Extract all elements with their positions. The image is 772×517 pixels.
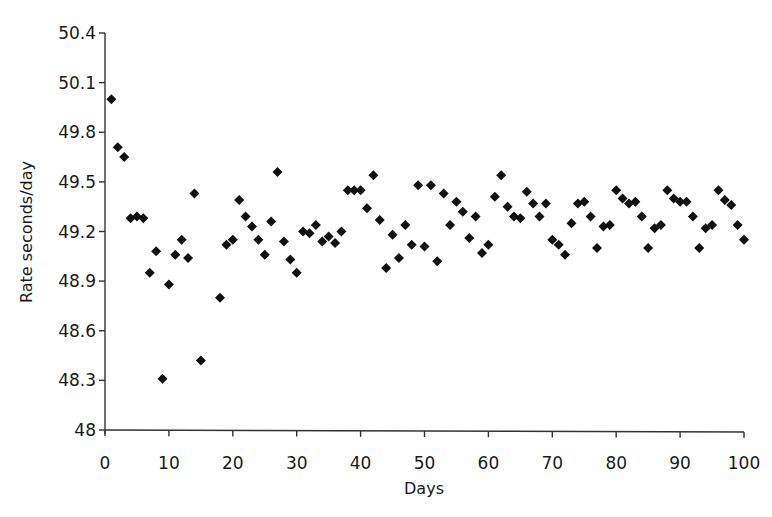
diamond-marker <box>279 236 289 246</box>
y-tick-label: 50.1 <box>58 73 96 93</box>
x-tick-label: 20 <box>222 453 244 473</box>
diamond-marker <box>643 243 653 253</box>
diamond-marker <box>311 220 321 230</box>
diamond-marker <box>164 279 174 289</box>
y-axis-title: Rate seconds/day <box>17 161 36 303</box>
diamond-marker <box>247 222 257 232</box>
diamond-marker <box>420 241 430 251</box>
y-tick-label: 48.9 <box>58 271 96 291</box>
diamond-marker <box>439 188 449 198</box>
diamond-marker <box>285 255 295 265</box>
diamond-marker <box>503 202 513 212</box>
y-tick-label: 48.6 <box>58 321 96 341</box>
diamond-marker <box>158 374 168 384</box>
diamond-marker <box>522 187 532 197</box>
x-tick-label: 10 <box>158 453 180 473</box>
diamond-marker <box>451 197 461 207</box>
diamond-marker <box>368 170 378 180</box>
diamond-marker <box>592 243 602 253</box>
diamond-marker <box>688 212 698 222</box>
diamond-marker <box>196 356 206 366</box>
diamond-marker <box>694 243 704 253</box>
diamond-marker <box>170 250 180 260</box>
y-tick-label: 49.2 <box>58 222 96 242</box>
diamond-marker <box>400 220 410 230</box>
diamond-marker <box>560 250 570 260</box>
y-axis: 4848.348.648.949.249.549.850.150.4 <box>58 23 105 440</box>
diamond-marker <box>458 207 468 217</box>
x-tick-label: 90 <box>669 453 691 473</box>
diamond-marker <box>713 185 723 195</box>
diamond-marker <box>183 253 193 263</box>
diamond-marker <box>106 94 116 104</box>
diamond-marker <box>733 220 743 230</box>
diamond-marker <box>464 233 474 243</box>
diamond-marker <box>330 238 340 248</box>
data-points <box>106 94 749 384</box>
diamond-marker <box>388 230 398 240</box>
diamond-marker <box>234 195 244 205</box>
diamond-marker <box>483 240 493 250</box>
x-tick-label: 50 <box>414 453 436 473</box>
diamond-marker <box>266 217 276 227</box>
diamond-marker <box>445 220 455 230</box>
diamond-marker <box>375 215 385 225</box>
diamond-marker <box>496 170 506 180</box>
diamond-marker <box>145 268 155 278</box>
diamond-marker <box>407 240 417 250</box>
diamond-marker <box>535 212 545 222</box>
x-axis-title: Days <box>404 479 444 498</box>
diamond-marker <box>413 180 423 190</box>
diamond-marker <box>394 253 404 263</box>
x-tick-label: 70 <box>541 453 563 473</box>
diamond-marker <box>292 268 302 278</box>
x-tick-label: 30 <box>286 453 308 473</box>
diamond-marker <box>336 227 346 237</box>
diamond-marker <box>528 198 538 208</box>
y-tick-label: 48 <box>74 420 96 440</box>
diamond-marker <box>541 198 551 208</box>
x-tick-label: 80 <box>605 453 627 473</box>
diamond-marker <box>253 235 263 245</box>
diamond-marker <box>241 212 251 222</box>
diamond-marker <box>215 293 225 303</box>
diamond-marker <box>477 248 487 258</box>
diamond-marker <box>356 185 366 195</box>
diamond-marker <box>273 167 283 177</box>
diamond-marker <box>662 185 672 195</box>
x-tick-label: 60 <box>478 453 500 473</box>
y-tick-label: 50.4 <box>58 23 96 43</box>
diamond-marker <box>151 246 161 256</box>
diamond-marker <box>566 218 576 228</box>
diamond-marker <box>637 212 647 222</box>
x-tick-label: 0 <box>100 453 111 473</box>
diamond-marker <box>113 142 123 152</box>
diamond-marker <box>381 263 391 273</box>
y-tick-label: 49.8 <box>58 122 96 142</box>
diamond-marker <box>177 235 187 245</box>
diamond-marker <box>490 192 500 202</box>
diamond-marker <box>739 235 749 245</box>
y-tick-label: 49.5 <box>58 172 96 192</box>
diamond-marker <box>260 250 270 260</box>
diamond-marker <box>611 185 621 195</box>
diamond-marker <box>681 197 691 207</box>
y-tick-label: 48.3 <box>58 370 96 390</box>
x-tick-label: 40 <box>350 453 372 473</box>
diamond-marker <box>362 203 372 213</box>
x-axis: 0102030405060708090100 <box>100 430 761 473</box>
scatter-chart: 0102030405060708090100 4848.348.648.949.… <box>0 0 772 517</box>
diamond-marker <box>432 256 442 266</box>
diamond-marker <box>586 212 596 222</box>
diamond-marker <box>471 212 481 222</box>
x-tick-label: 100 <box>728 453 760 473</box>
diamond-marker <box>426 180 436 190</box>
diamond-marker <box>119 152 129 162</box>
diamond-marker <box>189 188 199 198</box>
